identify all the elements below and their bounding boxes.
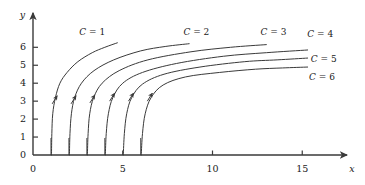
y-tick-label: 3 bbox=[20, 96, 26, 106]
y-tick-label: 0 bbox=[20, 150, 26, 160]
y-tick-label: 5 bbox=[20, 60, 26, 70]
solution-curve bbox=[87, 45, 266, 155]
curve-label-1: C = 1 bbox=[79, 28, 105, 37]
x-axis-label: x bbox=[349, 164, 354, 174]
y-axis-ticks bbox=[33, 47, 38, 137]
x-axis-ticks bbox=[51, 138, 302, 155]
x-tick-label: 0 bbox=[30, 164, 36, 174]
y-tick-label: 6 bbox=[20, 42, 26, 52]
y-tick-label: 2 bbox=[20, 114, 26, 124]
figure-container: 0510150123456xyC = 1C = 2C = 3C = 4C = 5… bbox=[0, 0, 365, 185]
y-axis-label: y bbox=[20, 10, 25, 20]
curve-label-3: C = 3 bbox=[261, 28, 287, 37]
solution-curve bbox=[141, 67, 307, 155]
x-tick-label: 5 bbox=[120, 164, 126, 174]
solution-curves-group bbox=[51, 43, 307, 155]
direction-arrows-group bbox=[52, 93, 152, 104]
solution-curve bbox=[51, 43, 117, 155]
x-tick-label: 15 bbox=[296, 164, 308, 174]
curve-label-2: C = 2 bbox=[183, 28, 209, 37]
y-tick-label: 1 bbox=[20, 132, 26, 142]
curve-label-6: C = 6 bbox=[309, 73, 335, 82]
curve-label-4: C = 4 bbox=[307, 30, 333, 39]
x-tick-label: 10 bbox=[206, 164, 218, 174]
curve-label-5: C = 5 bbox=[311, 55, 337, 64]
y-tick-label: 4 bbox=[20, 78, 26, 88]
